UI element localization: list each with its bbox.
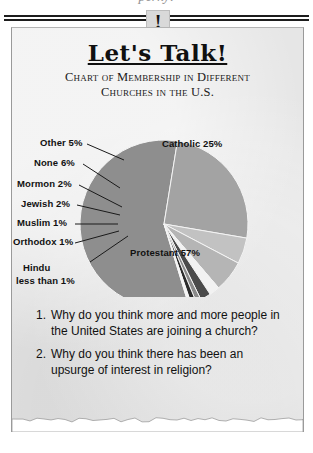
pie-label-catholic: Catholic 25%: [162, 138, 222, 149]
chart-title: Chart of Membership in Different Churche…: [12, 70, 303, 100]
pie-label-protestant: Protestant 57%: [130, 247, 200, 258]
chart-title-line1: Chart of Membership in Different: [12, 70, 303, 85]
worksheet-card: Let's Talk! Chart of Membership in Diffe…: [11, 27, 304, 432]
question-item: 2. Why do you think there has been an up…: [36, 347, 286, 378]
chart-title-line2: Churches in the U.S.: [12, 85, 303, 100]
pie-label-hindu-line2: less than 1%: [16, 275, 75, 286]
pie-chart: Other 5% None 6% Mormon 2% Jewish 2% Mus…: [12, 102, 303, 297]
pie-label-other: Other 5%: [40, 137, 83, 148]
question-text: Why do you think more and more people in…: [51, 308, 286, 339]
pie-label-orthodox: Orthodox 1%: [13, 236, 73, 247]
question-text: Why do you think there has been an upsur…: [51, 347, 286, 378]
pie-label-mormon: Mormon 2%: [17, 178, 72, 189]
pie-slices: [80, 140, 248, 297]
page-title: Let's Talk!: [12, 39, 303, 66]
torn-paper-edge: [12, 410, 303, 432]
pie-label-muslim: Muslim 1%: [17, 217, 67, 228]
pie-label-hindu-line1: Hindu: [23, 262, 50, 273]
pie-slice-catholic: [164, 141, 248, 238]
cut-off-text: perky!: [139, 0, 175, 5]
pie-label-jewish: Jewish 2%: [21, 198, 70, 209]
header-divider: !: [0, 13, 313, 27]
leader-line-other: [87, 144, 124, 160]
questions-list: 1. Why do you think more and more people…: [36, 308, 286, 386]
pie-label-none: None 6%: [34, 157, 75, 168]
question-number: 1.: [36, 308, 51, 339]
page-title-text: Let's Talk!: [88, 39, 228, 66]
question-number: 2.: [36, 347, 51, 378]
question-item: 1. Why do you think more and more people…: [36, 308, 286, 339]
